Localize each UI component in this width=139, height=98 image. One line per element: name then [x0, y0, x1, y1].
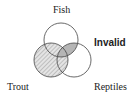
fish-label: Fish [53, 4, 70, 16]
verdict-label: Invalid [94, 37, 126, 49]
venn-diagram: Fish Trout Reptiles Invalid [0, 0, 139, 98]
trout-label: Trout [7, 81, 29, 93]
reptiles-label: Reptiles [94, 81, 127, 93]
